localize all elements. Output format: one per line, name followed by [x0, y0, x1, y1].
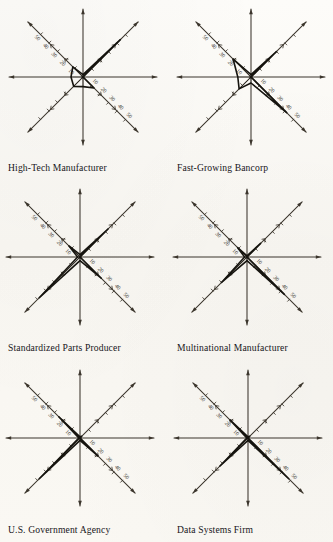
star-plot-us-government-agency: 10203040501020304050 — [0, 360, 167, 542]
svg-text:30: 30 — [108, 94, 116, 102]
svg-text:50: 50 — [122, 291, 130, 299]
svg-text:10: 10 — [255, 257, 263, 265]
svg-text:30: 30 — [276, 94, 284, 102]
star-plot-standardized-parts-producer: 10203040501020304050 — [0, 180, 167, 360]
svg-text:50: 50 — [125, 111, 133, 119]
svg-text:10: 10 — [256, 438, 264, 446]
star-plot-fast-growing-bancorp: 10203040501020304050 — [167, 0, 333, 180]
svg-text:50: 50 — [293, 111, 301, 119]
svg-text:30: 30 — [105, 455, 113, 463]
svg-text:50: 50 — [122, 472, 130, 480]
chart-cell-high-tech-manufacturer: 10203040501020304050 High-Tech Manufactu… — [0, 0, 167, 180]
chart-grid: 10203040501020304050 High-Tech Manufactu… — [0, 0, 333, 542]
chart-cell-us-government-agency: 10203040501020304050 U.S. Government Age… — [0, 360, 167, 542]
chart-cell-multinational-manufacturer: 10203040501020304050 Multinational Manuf… — [167, 180, 333, 360]
chart-cell-fast-growing-bancorp: 10203040501020304050 Fast-Growing Bancor… — [167, 0, 333, 180]
chart-caption: U.S. Government Agency — [0, 524, 175, 535]
svg-text:40: 40 — [282, 464, 290, 472]
svg-text:30: 30 — [105, 274, 113, 282]
chart-cell-standardized-parts-producer: 10203040501020304050 Standardized Parts … — [0, 180, 167, 360]
svg-text:10: 10 — [88, 438, 96, 446]
chart-caption: Standardized Parts Producer — [0, 342, 175, 353]
chart-cell-data-systems-firm: 10203040501020304050 Data Systems Firm — [167, 360, 333, 542]
data-polygon — [233, 52, 286, 113]
svg-text:10: 10 — [88, 257, 96, 265]
svg-text:40: 40 — [114, 464, 122, 472]
svg-text:10: 10 — [259, 77, 267, 85]
chart-caption: Fast-Growing Bancorp — [167, 162, 333, 173]
star-plot-high-tech-manufacturer: 10203040501020304050 — [0, 0, 167, 180]
svg-text:40: 40 — [285, 103, 293, 111]
chart-caption: High-Tech Manufacturer — [0, 162, 175, 173]
star-plot-data-systems-firm: 10203040501020304050 — [167, 360, 333, 542]
svg-text:40: 40 — [117, 103, 125, 111]
data-polygon — [220, 420, 289, 479]
star-plot-multinational-manufacturer: 10203040501020304050 — [167, 180, 333, 360]
svg-text:30: 30 — [273, 455, 281, 463]
svg-text:40: 40 — [114, 283, 122, 291]
svg-text:50: 50 — [289, 291, 297, 299]
svg-text:30: 30 — [272, 274, 280, 282]
svg-text:50: 50 — [290, 472, 298, 480]
chart-caption: Data Systems Firm — [167, 524, 333, 535]
svg-text:10: 10 — [91, 77, 99, 85]
chart-caption: Multinational Manufacturer — [167, 342, 333, 353]
svg-text:40: 40 — [281, 283, 289, 291]
